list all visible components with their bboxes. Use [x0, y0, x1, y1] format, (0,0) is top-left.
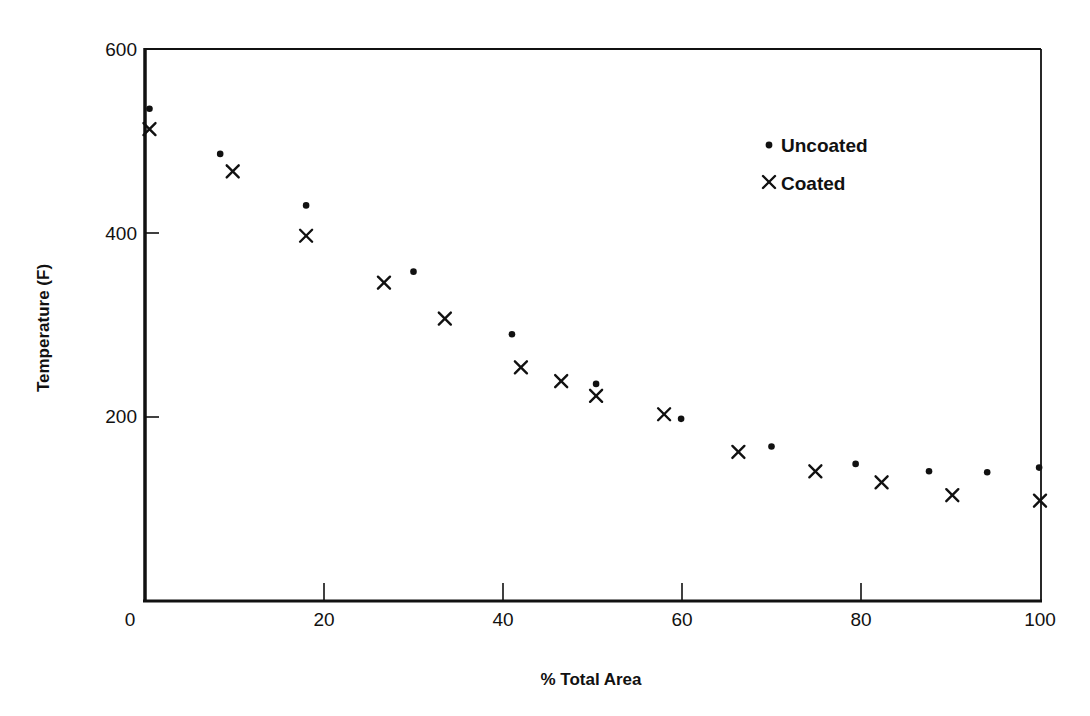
data-point-uncoated: [852, 461, 859, 468]
y-axis-title: Temperature (F): [34, 264, 53, 392]
y-tick-labels: 200 400 600: [105, 39, 137, 427]
data-point-coated: [378, 277, 390, 289]
data-point-coated: [590, 390, 602, 402]
x-tick-label: 100: [1024, 609, 1056, 630]
legend-label-uncoated: Uncoated: [781, 135, 868, 156]
y-tick-label: 400: [105, 223, 137, 244]
data-point-uncoated: [217, 151, 224, 158]
data-point-coated: [732, 446, 744, 458]
data-point-coated: [515, 361, 527, 373]
data-point-coated: [946, 489, 958, 501]
x-tick-label: 60: [671, 609, 692, 630]
data-point-coated: [809, 465, 821, 477]
legend: Uncoated Coated: [763, 135, 868, 194]
data-point-coated: [227, 165, 239, 177]
data-point-uncoated: [593, 381, 600, 388]
data-point-uncoated: [678, 416, 685, 423]
x-marker-icon: [763, 176, 775, 188]
data-point-coated: [876, 476, 888, 488]
data-point-uncoated: [146, 106, 153, 113]
data-point-coated: [439, 313, 451, 325]
x-axis-title: % Total Area: [540, 670, 642, 689]
data-point-uncoated: [984, 469, 991, 476]
y-axis-ticks: [145, 233, 159, 417]
data-point-uncoated: [509, 331, 516, 338]
x-tick-label: 80: [850, 609, 871, 630]
data-point-coated: [300, 230, 312, 242]
scatter-chart-svg: 0 20 40 60 80 100 200 400 600 % Total Ar…: [0, 0, 1090, 716]
x-tick-label: 20: [313, 609, 334, 630]
chart: 0 20 40 60 80 100 200 400 600 % Total Ar…: [0, 0, 1090, 716]
x-tick-label: 40: [492, 609, 513, 630]
x-tick-labels: 0 20 40 60 80 100: [125, 609, 1056, 630]
dot-marker-icon: [766, 142, 773, 149]
y-tick-label: 600: [105, 39, 137, 60]
data-point-uncoated: [768, 443, 775, 450]
data-point-uncoated: [926, 468, 933, 475]
data-point-coated: [658, 408, 670, 420]
x-axis-ticks: [324, 583, 861, 601]
data-point-uncoated: [1036, 464, 1043, 471]
data-point-coated: [555, 375, 567, 387]
legend-item-coated: Coated: [763, 173, 845, 194]
legend-item-uncoated: Uncoated: [766, 135, 868, 156]
plot-frame: [143, 48, 1042, 602]
data-point-uncoated: [303, 202, 310, 209]
legend-label-coated: Coated: [781, 173, 845, 194]
series-coated-points: [143, 123, 1046, 507]
series-uncoated-points: [146, 106, 1042, 476]
data-point-uncoated: [410, 268, 417, 275]
y-tick-label: 200: [105, 406, 137, 427]
data-point-coated: [1034, 495, 1046, 507]
x-tick-label: 0: [125, 609, 136, 630]
